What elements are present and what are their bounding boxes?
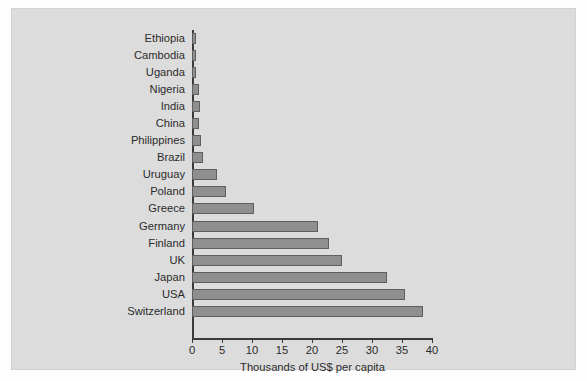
- x-tick-label: 30: [366, 344, 378, 357]
- bar-row: Ethiopia: [192, 30, 432, 47]
- category-label: USA: [162, 286, 185, 303]
- bar: [192, 255, 342, 266]
- category-label: Uruguay: [143, 166, 185, 183]
- category-label: Japan: [155, 269, 185, 286]
- bar: [192, 186, 226, 197]
- bar-row: Cambodia: [192, 47, 432, 64]
- bar-row: Philippines: [192, 132, 432, 149]
- category-label: Poland: [150, 183, 185, 200]
- x-tick: [252, 338, 253, 343]
- bar: [192, 50, 196, 61]
- figure-frame: EthiopiaCambodiaUgandaNigeriaIndiaChinaP…: [11, 8, 576, 370]
- x-tick-label: 20: [306, 344, 318, 357]
- category-label: Ethiopia: [145, 30, 185, 47]
- category-label: Finland: [148, 235, 185, 252]
- x-tick-label: 10: [246, 344, 258, 357]
- bar: [192, 272, 387, 283]
- x-tick: [312, 338, 313, 343]
- x-tick: [342, 338, 343, 343]
- bar: [192, 67, 196, 78]
- category-label: Brazil: [157, 149, 185, 166]
- x-tick: [282, 338, 283, 343]
- x-tick-label: 15: [276, 344, 288, 357]
- bar: [192, 169, 217, 180]
- category-label: Cambodia: [134, 47, 185, 64]
- category-label: Switzerland: [127, 303, 185, 320]
- category-label: UK: [169, 252, 185, 269]
- bar: [192, 289, 405, 300]
- bar: [192, 101, 200, 112]
- bar-row: Switzerland: [192, 303, 432, 320]
- category-label: India: [161, 98, 185, 115]
- bar-row: Germany: [192, 218, 432, 235]
- category-label: Germany: [139, 218, 185, 235]
- x-tick-label: 40: [426, 344, 438, 357]
- category-label: Uganda: [146, 64, 185, 81]
- bar-row: USA: [192, 286, 432, 303]
- x-tick-label: 35: [396, 344, 408, 357]
- x-tick-label: 25: [336, 344, 348, 357]
- bar-row: Poland: [192, 183, 432, 200]
- bar-row: India: [192, 98, 432, 115]
- bar: [192, 118, 199, 129]
- plot-area: EthiopiaCambodiaUgandaNigeriaIndiaChinaP…: [192, 30, 432, 337]
- bar-row: Nigeria: [192, 81, 432, 98]
- x-axis-title: Thousands of US$ per capita: [192, 361, 433, 373]
- bar: [192, 33, 196, 44]
- bar: [192, 238, 329, 249]
- bar: [192, 135, 201, 146]
- x-tick: [222, 338, 223, 343]
- bar-row: Greece: [192, 200, 432, 217]
- bar-row: Brazil: [192, 149, 432, 166]
- bar-row: UK: [192, 252, 432, 269]
- bar-row: Uruguay: [192, 166, 432, 183]
- x-tick: [432, 338, 433, 343]
- bar: [192, 221, 318, 232]
- category-label: Philippines: [131, 132, 185, 149]
- bar-row: Finland: [192, 235, 432, 252]
- bar-row: Uganda: [192, 64, 432, 81]
- chart-page: EthiopiaCambodiaUgandaNigeriaIndiaChinaP…: [0, 0, 587, 381]
- bar: [192, 306, 423, 317]
- category-label: Greece: [148, 200, 185, 217]
- bar: [192, 84, 199, 95]
- bar: [192, 152, 203, 163]
- x-tick: [402, 338, 403, 343]
- x-tick: [372, 338, 373, 343]
- x-tick: [192, 338, 193, 343]
- x-tick-label: 0: [189, 344, 195, 357]
- category-label: China: [156, 115, 185, 132]
- x-tick-label: 5: [219, 344, 225, 357]
- bar-row: China: [192, 115, 432, 132]
- category-label: Nigeria: [150, 81, 185, 98]
- bar-row: Japan: [192, 269, 432, 286]
- bar: [192, 203, 254, 214]
